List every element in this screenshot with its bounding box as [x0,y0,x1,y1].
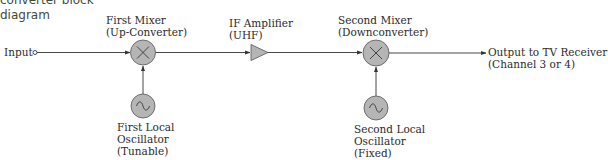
second-oscillator-subtitle: (Fixed) [354,147,425,159]
output-subtitle: (Channel 3 or 4) [488,58,607,70]
second-oscillator-title: Second Local [354,123,425,135]
input-label: Input [4,46,33,58]
output-label: Output to TV Receiver (Channel 3 or 4) [488,46,607,70]
input-terminal-icon [33,51,37,55]
first-mixer-subtitle: (Up-Converter) [106,26,187,38]
if-amplifier-label: IF Amplifier (UHF) [229,17,293,41]
output-title: Output to TV Receiver [488,46,607,58]
second-oscillator-icon [364,96,388,120]
second-mixer-label: Second Mixer (Downconverter) [338,14,428,38]
second-oscillator-line2: Oscillator [354,135,425,147]
if-amplifier-subtitle: (UHF) [229,29,293,41]
first-oscillator-label: First Local Oscillator (Tunable) [117,121,174,157]
block-diagram [0,0,608,160]
first-oscillator-title: First Local [117,121,174,133]
second-mixer-subtitle: (Downconverter) [338,26,428,38]
if-amplifier-title: IF Amplifier [229,17,293,29]
first-mixer-label: First Mixer (Up-Converter) [106,14,187,38]
first-mixer-icon [131,40,156,65]
first-oscillator-subtitle: (Tunable) [117,145,174,157]
first-mixer-title: First Mixer [106,14,187,26]
first-oscillator-icon [131,94,155,118]
if-amplifier-icon [251,45,268,61]
second-mixer-icon [363,40,389,66]
second-oscillator-label: Second Local Oscillator (Fixed) [354,123,425,159]
second-mixer-title: Second Mixer [338,14,428,26]
first-oscillator-line2: Oscillator [117,133,174,145]
